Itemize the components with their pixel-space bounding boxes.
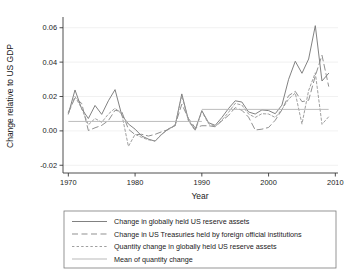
series-line — [68, 55, 328, 136]
x-tick-label: 2000 — [260, 178, 276, 187]
y-tick-label: 0.06 — [43, 23, 57, 32]
axis-ticks — [60, 28, 336, 177]
x-tick-label: 1970 — [60, 178, 76, 187]
y-tick-label: 0.02 — [43, 92, 57, 101]
legend-item-label: Change in US Treasuries held by foreign … — [114, 230, 302, 239]
y-tick-label: -0.02 — [40, 161, 57, 170]
x-axis-title: Year — [191, 191, 208, 201]
series-line — [68, 26, 328, 142]
chart-figure: -0.020.000.020.040.06 197019801990200020… — [0, 0, 357, 273]
x-tick-label: 1980 — [127, 178, 143, 187]
chart-legend: Change in globally held US reserve asset… — [64, 211, 336, 268]
legend-item-label: Quantity change in globally held US rese… — [114, 242, 277, 251]
y-tick-label: 0.00 — [43, 126, 57, 135]
axis-lines — [63, 17, 338, 173]
x-tick-label: 1990 — [194, 178, 210, 187]
legend-item-label: Change in globally held US reserve asset… — [114, 217, 250, 226]
x-tick-labels: 19701980199020002010 — [60, 178, 343, 187]
legend-item-label: Mean of quantity change — [114, 255, 193, 264]
data-series-lines — [68, 26, 328, 147]
x-tick-label: 2010 — [327, 178, 343, 187]
y-tick-label: 0.04 — [43, 58, 57, 67]
y-tick-labels: -0.020.000.020.040.06 — [40, 23, 57, 170]
y-axis-title: Change relative to US GDP — [5, 44, 15, 148]
reserve-assets-line-chart: -0.020.000.020.040.06 197019801990200020… — [0, 0, 357, 273]
gridlines — [63, 28, 338, 166]
